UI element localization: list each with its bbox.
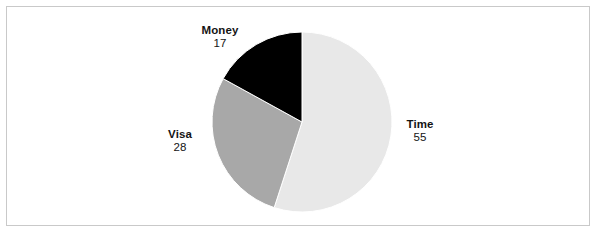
pie-label-visa-name: Visa bbox=[143, 128, 217, 141]
pie-label-time-value: 55 bbox=[389, 131, 451, 144]
pie-slices bbox=[212, 32, 392, 212]
pie-label-money-name: Money bbox=[178, 24, 262, 37]
pie-chart-graphic bbox=[0, 0, 599, 235]
pie-label-time: Time 55 bbox=[389, 118, 451, 144]
pie-chart-figure: Money 17 Visa 28 Time 55 bbox=[0, 0, 599, 235]
pie-label-money-value: 17 bbox=[178, 37, 262, 50]
pie-label-visa-value: 28 bbox=[143, 141, 217, 154]
pie-label-time-name: Time bbox=[389, 118, 451, 131]
pie-label-money: Money 17 bbox=[178, 24, 262, 50]
pie-label-visa: Visa 28 bbox=[143, 128, 217, 154]
